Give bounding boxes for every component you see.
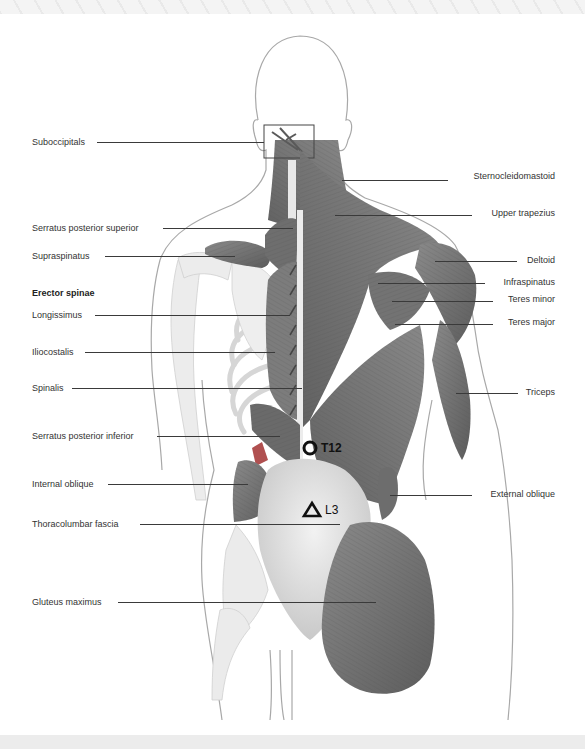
leader-infraspinatus — [378, 283, 485, 284]
label-longissimus: Longissimus — [32, 310, 82, 321]
l3-marker-label: L3 — [325, 503, 338, 517]
leader-upper-trapezius — [335, 215, 472, 216]
label-gluteus-maximus: Gluteus maximus — [32, 597, 102, 608]
leader-teres-minor — [392, 301, 493, 302]
label-deltoid: Deltoid — [527, 255, 555, 266]
label-external-oblique: External oblique — [490, 489, 555, 500]
leader-serratus-posterior-superior — [163, 228, 293, 229]
leader-iliocostalis — [85, 352, 275, 353]
leader-deltoid — [435, 261, 517, 262]
label-infraspinatus: Infraspinatus — [503, 277, 555, 288]
leader-longissimus — [95, 315, 290, 316]
leader-triceps — [456, 393, 518, 394]
label-spinalis: Spinalis — [32, 383, 64, 394]
label-serratus-posterior-inferior: Serratus posterior inferior — [32, 431, 134, 442]
external-oblique-muscle — [378, 467, 398, 520]
leader-suboccipitals — [97, 142, 264, 143]
label-internal-oblique: Internal oblique — [32, 479, 94, 490]
left-arm-bones — [171, 252, 232, 500]
label-supraspinatus: Supraspinatus — [32, 251, 90, 262]
leader-spinalis — [72, 388, 302, 389]
label-triceps: Triceps — [526, 387, 555, 398]
label-erector-spinae-heading: Erector spinae — [32, 288, 95, 299]
label-upper-trapezius: Upper trapezius — [491, 208, 555, 219]
leader-internal-oblique — [108, 484, 248, 485]
label-teres-major: Teres major — [508, 317, 555, 328]
leader-external-oblique — [390, 495, 472, 496]
leader-sternocleidomastoid — [342, 180, 448, 181]
anatomy-illustration — [0, 0, 585, 749]
leader-teres-major — [395, 324, 493, 325]
label-thoracolumbar-fascia: Thoracolumbar fascia — [32, 519, 119, 530]
t12-marker-label: T12 — [321, 441, 342, 455]
leader-serratus-posterior-inferior — [157, 436, 280, 437]
bottom-band — [0, 735, 585, 749]
leader-gluteus-maximus — [118, 602, 376, 603]
label-iliocostalis: Iliocostalis — [32, 347, 74, 358]
label-teres-minor: Teres minor — [508, 294, 555, 305]
label-sternocleidomastoid: Sternocleidomastoid — [473, 171, 555, 182]
label-serratus-posterior-superior: Serratus posterior superior — [32, 223, 139, 234]
label-suboccipitals: Suboccipitals — [32, 137, 85, 148]
leader-thoracolumbar-fascia — [140, 524, 340, 525]
leader-supraspinatus — [105, 256, 235, 257]
pelvis-bones — [212, 525, 268, 700]
